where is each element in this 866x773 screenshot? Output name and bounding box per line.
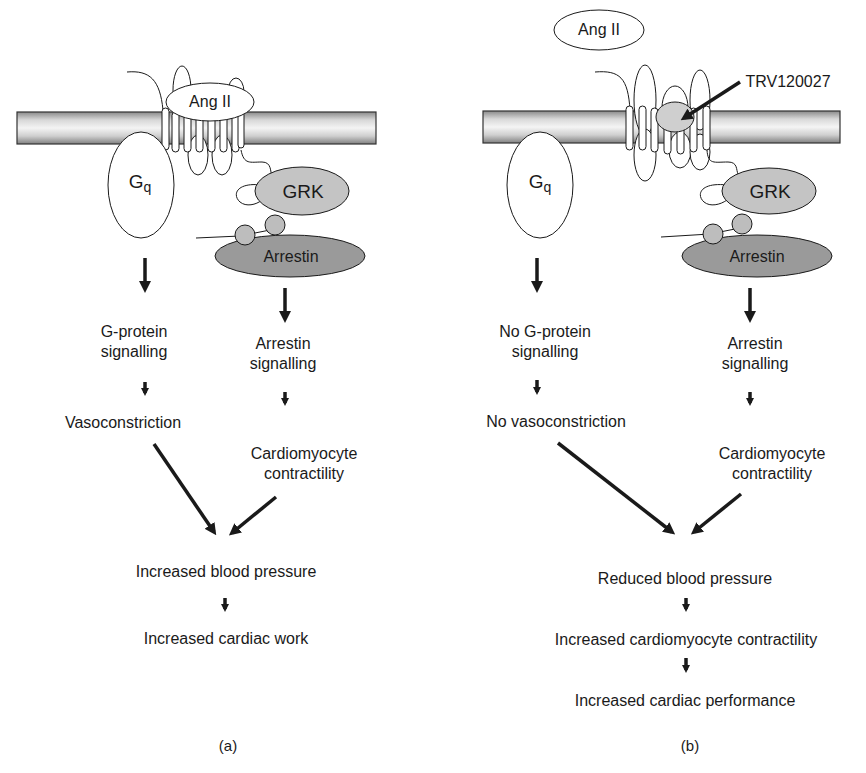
g-path-b-line1: No G-protein	[499, 322, 591, 342]
arrestin-signalling-b: Arrestin signalling	[722, 334, 789, 374]
biased-agonism-diagram	[0, 0, 866, 773]
panel-a	[17, 66, 376, 609]
g-path-a-line2: signalling	[101, 342, 168, 362]
panel-caption-a: (a)	[219, 736, 237, 756]
cardiomyocyte-contractility-b: Cardiomyocyte contractility	[719, 444, 826, 484]
cm-b-line2: contractility	[719, 464, 826, 484]
arrestin-label-b: Arrestin	[729, 248, 784, 266]
arrestin-path-b-line2: signalling	[722, 354, 789, 374]
outcome-a-1: Increased blood pressure	[136, 562, 317, 582]
arrestin-signalling-a: Arrestin signalling	[250, 334, 317, 374]
no-g-protein-signalling-b: No G-protein signalling	[499, 322, 591, 362]
phosphate-b-1	[703, 224, 723, 244]
arrestin-path-b-line1: Arrestin	[722, 334, 789, 354]
phosphate-a-2	[265, 215, 285, 235]
grk-label-b: GRK	[749, 181, 790, 203]
panel-caption-b: (b)	[681, 736, 699, 756]
gq-label-b-main: G	[529, 171, 544, 192]
outcome-b-3: Increased cardiac performance	[575, 691, 796, 711]
ang-ii-label-a: Ang II	[189, 93, 231, 111]
outcome-b-1: Reduced blood pressure	[598, 569, 772, 589]
cm-b-line1: Cardiomyocyte	[719, 444, 826, 464]
no-vasoconstriction-b: No vasoconstriction	[486, 412, 626, 432]
cm-a-line1: Cardiomyocyte	[251, 444, 358, 464]
vasoconstriction-a: Vasoconstriction	[65, 413, 181, 433]
arrows-a	[145, 258, 285, 609]
outcome-b-2: Increased cardiomyocyte contractility	[555, 630, 817, 650]
cm-a-line2: contractility	[251, 464, 358, 484]
phosphate-b-2	[732, 214, 752, 234]
g-protein-signalling-a: G-protein signalling	[101, 322, 168, 362]
gq-label-a: Gq	[129, 171, 152, 196]
phosphate-a-1	[235, 225, 255, 245]
outcome-a-2: Increased cardiac work	[144, 629, 309, 649]
grk-label-a: GRK	[282, 181, 323, 203]
arrestin-path-a-line1: Arrestin	[250, 334, 317, 354]
gq-label-a-main: G	[129, 171, 144, 192]
trv120027-label: TRV120027	[745, 72, 830, 92]
ang-ii-label-b: Ang II	[578, 21, 620, 39]
arrestin-path-a-line2: signalling	[250, 354, 317, 374]
gq-label-a-sub: q	[143, 179, 151, 195]
n-terminus-a	[127, 72, 163, 110]
gq-label-b: Gq	[529, 171, 552, 196]
cardiomyocyte-contractility-a: Cardiomyocyte contractility	[251, 444, 358, 484]
g-path-b-line2: signalling	[499, 342, 591, 362]
g-path-a-line1: G-protein	[101, 322, 168, 342]
arrestin-label-a: Arrestin	[263, 248, 318, 266]
gq-label-b-sub: q	[543, 179, 551, 195]
